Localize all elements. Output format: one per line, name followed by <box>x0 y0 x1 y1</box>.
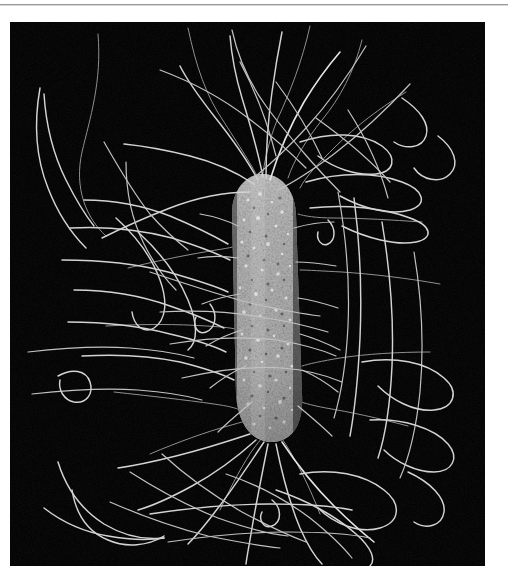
micrograph-plate: .fl { fill:none; stroke:#d4d4d4; stroke-… <box>10 22 485 566</box>
sem-micrograph-image: .fl { fill:none; stroke:#d4d4d4; stroke-… <box>10 22 485 566</box>
figure-page: .fl { fill:none; stroke:#d4d4d4; stroke-… <box>0 0 508 584</box>
horizontal-rule-shadow <box>0 5 508 6</box>
